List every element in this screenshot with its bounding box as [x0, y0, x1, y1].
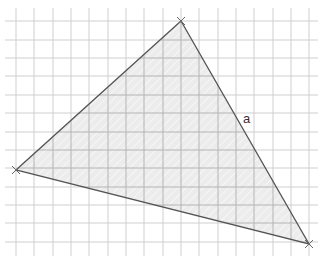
side-label-a: a — [243, 111, 251, 126]
triangle-diagram: a — [0, 0, 322, 260]
